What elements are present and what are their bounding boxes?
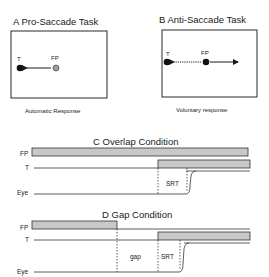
panel-a-title: A Pro-Saccade Task <box>13 16 99 27</box>
t-on-bar <box>158 232 250 240</box>
fp-on-bar <box>32 221 117 229</box>
fixation-dot-icon <box>53 65 59 71</box>
fixation-dot-icon <box>203 59 210 66</box>
panel-b-caption: Voluntary response <box>176 107 228 113</box>
row-label-t: T <box>25 236 29 243</box>
fp-on-bar <box>32 148 248 156</box>
saccade-diagram: A Pro-Saccade Task T FP Automatic Respon… <box>0 0 269 277</box>
t-on-bar <box>158 160 250 168</box>
panel-c-title: C Overlap Condition <box>93 136 179 147</box>
panel-a-caption: Automatic Response <box>25 108 81 114</box>
panel-a-fixation-label: FP <box>51 55 59 61</box>
target-dot-icon <box>164 59 171 66</box>
target-dot-icon <box>17 65 24 72</box>
panel-b-screen <box>162 30 257 97</box>
row-label-eye: Eye <box>17 189 29 197</box>
srt-label: SRT <box>161 253 174 260</box>
panel-b-title: B Anti-Saccade Task <box>159 14 246 25</box>
panel-anti-saccade: B Anti-Saccade Task T FP Voluntary respo… <box>159 14 257 113</box>
panel-b-target-label: T <box>166 51 170 57</box>
row-label-eye: Eye <box>17 268 29 276</box>
panel-a-screen <box>11 31 107 98</box>
row-label-fp: FP <box>20 150 28 157</box>
srt-label: SRT <box>166 180 179 187</box>
panel-d-title: D Gap Condition <box>102 209 172 220</box>
gap-label: gap <box>130 253 141 261</box>
panel-overlap-condition: C Overlap Condition FP T Eye SRT <box>17 136 250 197</box>
row-label-fp: FP <box>20 224 28 231</box>
row-label-t: T <box>25 164 29 171</box>
panel-a-target-label: T <box>17 56 21 62</box>
panel-b-fixation-label: FP <box>201 50 209 56</box>
panel-pro-saccade: A Pro-Saccade Task T FP Automatic Respon… <box>11 16 107 114</box>
panel-gap-condition: D Gap Condition FP T Eye gap SRT <box>17 209 250 276</box>
